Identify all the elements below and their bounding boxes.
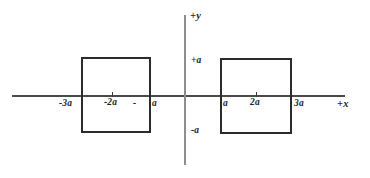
x-tick-label-pos-a: a (223, 99, 228, 109)
y-axis-label: +y (190, 11, 201, 22)
x-axis-line (12, 95, 345, 97)
graph-figure: +x +y -3a -2a - a a 2a 3a +a -a (0, 0, 370, 178)
x-tick-label-neg-two-a: -2a (104, 98, 117, 108)
square-pulse-left (81, 57, 151, 133)
x-tick-label-neg-a-sign: - (133, 99, 136, 109)
x-tick-label-neg-three-a: -3a (59, 99, 72, 109)
y-tick-label-neg-a: -a (191, 126, 199, 136)
y-tick-label-pos-a: +a (191, 56, 202, 66)
x-tick-label-pos-two-a: 2a (250, 98, 260, 108)
y-axis-line (184, 15, 186, 165)
x-tick-label-neg-a-value: a (152, 99, 157, 109)
x-axis-label: +x (337, 99, 349, 110)
x-tick-label-pos-three-a: 3a (294, 99, 304, 109)
